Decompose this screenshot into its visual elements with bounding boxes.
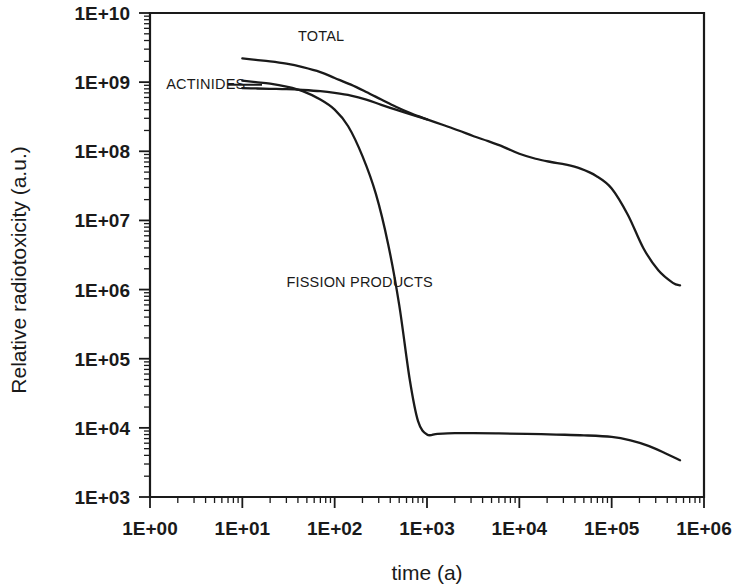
y-tick-label: 1E+09 (75, 72, 130, 93)
x-tick-label: 1E+05 (584, 518, 640, 539)
x-tick-label: 1E+02 (307, 518, 362, 539)
radiotoxicity-log-log-chart: 1E+031E+041E+051E+061E+071E+081E+091E+10… (0, 0, 736, 587)
annotation-total: TOTAL (298, 28, 344, 44)
y-axis-title: Relative radiotoxicity (a.u.) (7, 146, 30, 393)
x-tick-label: 1E+01 (215, 518, 271, 539)
y-tick-label: 1E+07 (75, 210, 130, 231)
y-tick-label: 1E+04 (75, 418, 131, 439)
x-tick-label: 1E+00 (122, 518, 177, 539)
y-tick-label: 1E+08 (75, 141, 130, 162)
y-tick-label: 1E+05 (75, 349, 131, 370)
x-axis-title: time (a) (391, 561, 462, 584)
y-tick-label: 1E+10 (75, 3, 130, 24)
x-tick-label: 1E+04 (492, 518, 548, 539)
x-tick-label: 1E+06 (676, 518, 731, 539)
y-tick-label: 1E+06 (75, 280, 130, 301)
chart-figure: 1E+031E+041E+051E+061E+071E+081E+091E+10… (0, 0, 736, 587)
x-tick-label: 1E+03 (399, 518, 454, 539)
annotation-fission-products: FISSION PRODUCTS (286, 274, 433, 290)
y-tick-label: 1E+03 (75, 487, 130, 508)
